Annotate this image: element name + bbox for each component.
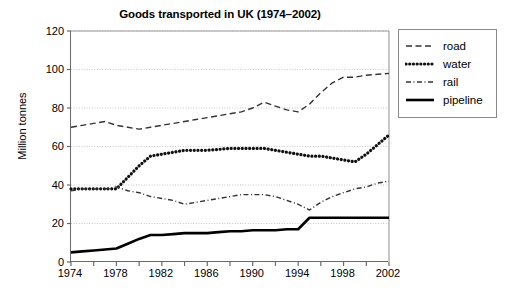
y-axis-tick-labels: 020406080100120 bbox=[22, 31, 64, 262]
x-axis-tick-label: 1994 bbox=[273, 268, 321, 279]
legend-item-road[interactable]: road bbox=[405, 37, 491, 55]
legend-swatch-rail bbox=[405, 76, 435, 88]
chart-legend: roadwaterrailpipeline bbox=[398, 29, 497, 118]
y-axis-tick-label: 60 bbox=[28, 141, 64, 152]
x-axis-tick-label: 1978 bbox=[91, 268, 139, 279]
legend-item-water[interactable]: water bbox=[405, 55, 491, 73]
series-line-road bbox=[71, 73, 389, 129]
x-axis-tick-label: 1998 bbox=[319, 268, 367, 279]
legend-swatch-water bbox=[405, 58, 435, 70]
x-axis-tick-label: 1986 bbox=[182, 268, 230, 279]
series-line-pipeline bbox=[71, 218, 389, 253]
y-axis-tick-label: 100 bbox=[28, 64, 64, 75]
y-axis-tick-label: 120 bbox=[28, 26, 64, 37]
x-axis-tick-label: 1974 bbox=[46, 268, 94, 279]
y-axis-tick-label: 20 bbox=[28, 218, 64, 229]
legend-label-pipeline: pipeline bbox=[443, 94, 483, 106]
legend-label-water: water bbox=[443, 58, 471, 70]
x-axis-tick-label: 1990 bbox=[228, 268, 276, 279]
y-axis-tick-label: 80 bbox=[28, 103, 64, 114]
legend-item-rail[interactable]: rail bbox=[405, 73, 491, 91]
legend-label-road: road bbox=[443, 40, 466, 52]
x-axis-tick-label: 2002 bbox=[364, 268, 412, 279]
y-axis-tick-label: 40 bbox=[28, 180, 64, 191]
plot-area bbox=[70, 31, 388, 262]
chart-title: Goods transported in UK (1974–2002) bbox=[60, 8, 380, 20]
legend-item-pipeline[interactable]: pipeline bbox=[405, 91, 491, 109]
plot-svg bbox=[71, 31, 389, 262]
y-axis-tick-label: 0 bbox=[28, 257, 64, 268]
legend-swatch-pipeline bbox=[405, 94, 435, 106]
x-axis-tick-labels: 19741978198219861990199419982002 bbox=[70, 268, 388, 284]
line-chart: Goods transported in UK (1974–2002) Mill… bbox=[0, 0, 509, 305]
series-line-water bbox=[71, 135, 389, 189]
legend-label-rail: rail bbox=[443, 76, 458, 88]
legend-swatch-road bbox=[405, 40, 435, 52]
x-axis-tick-label: 1982 bbox=[137, 268, 185, 279]
